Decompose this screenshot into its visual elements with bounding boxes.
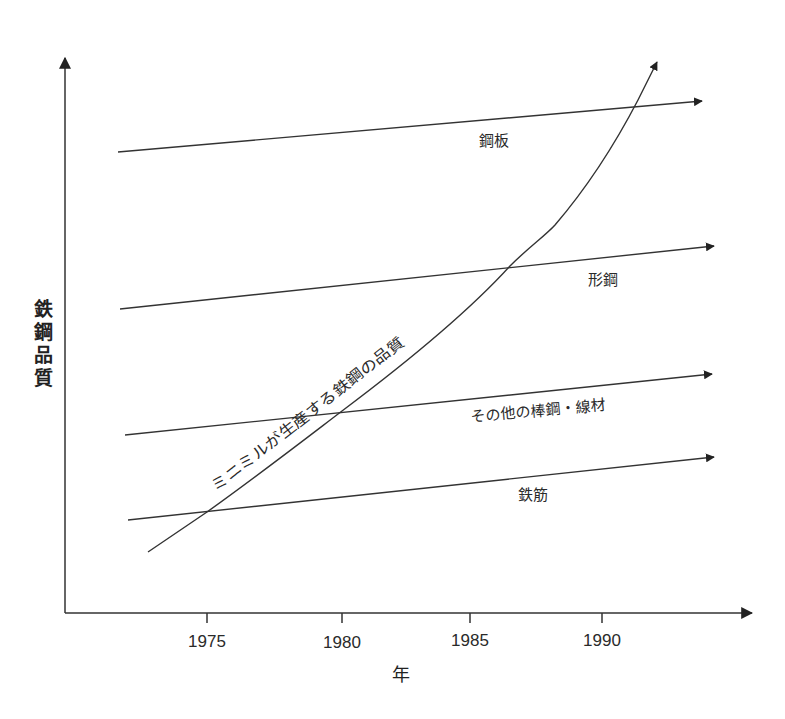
tick-label-1980: 1980 <box>323 633 361 652</box>
y-axis-title: 鉄 鋼 品 質 <box>33 298 53 389</box>
series-steel-plate-line <box>118 101 702 152</box>
series-other-bars-line <box>125 374 712 435</box>
y-title-char-2: 鋼 <box>33 321 53 343</box>
label-rebar: 鉄筋 <box>518 486 548 504</box>
label-minimill: ミニミルが生産する鉄鋼の品質 <box>207 333 407 495</box>
x-axis-title: 年 <box>392 664 410 685</box>
label-shaped-steel: 形鋼 <box>588 271 618 289</box>
tick-label-1985: 1985 <box>451 631 489 650</box>
tick-label-1975: 1975 <box>188 632 226 651</box>
label-steel-plate: 鋼板 <box>479 132 509 150</box>
y-title-char-3: 品 <box>34 344 53 366</box>
y-title-char-4: 質 <box>34 367 53 389</box>
x-ticks <box>207 613 602 623</box>
tick-label-1990: 1990 <box>583 631 621 650</box>
series-shaped-steel-line <box>120 246 714 309</box>
quality-chart: 1975 1980 1985 1990 年 鉄 鋼 品 質 鋼板 形鋼 その他の… <box>0 0 785 719</box>
label-other-bars: その他の棒鋼・線材 <box>470 396 606 426</box>
y-title-char-1: 鉄 <box>34 298 53 320</box>
